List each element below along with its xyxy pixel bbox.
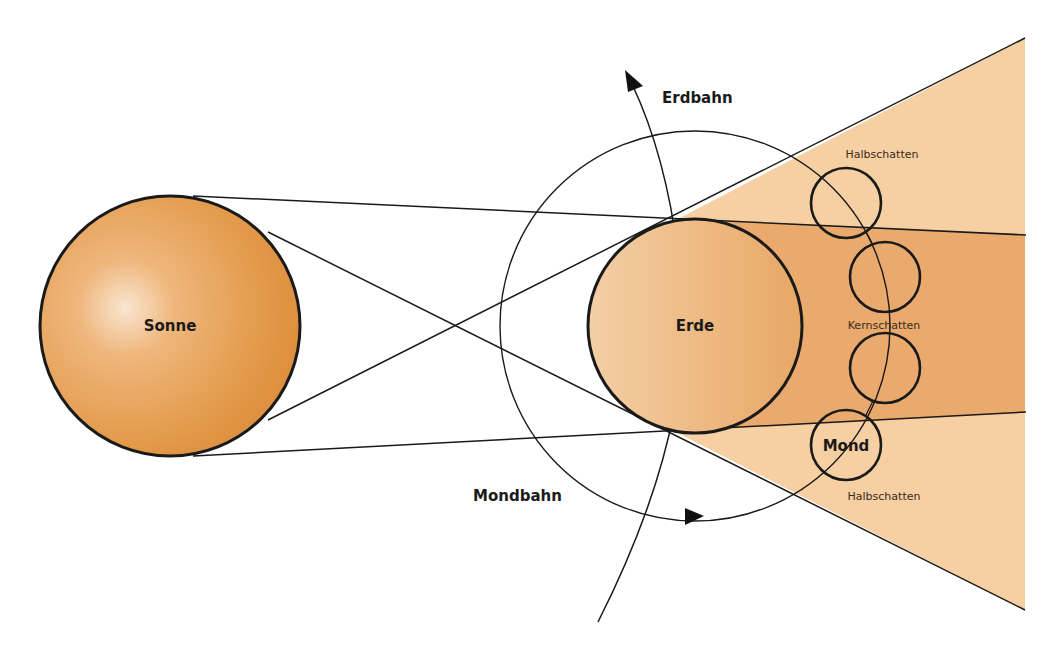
sun-label: Sonne xyxy=(144,317,197,335)
earth: Erde xyxy=(588,219,802,433)
lunar-eclipse-diagram: Sonne Erde Mond Erdbahn Mondbahn Halbsch… xyxy=(0,0,1056,653)
penumbra-label-top: Halbschatten xyxy=(846,148,919,161)
moon-orbit-label: Mondbahn xyxy=(473,487,562,505)
penumbra-label-bottom: Halbschatten xyxy=(848,490,921,503)
umbra-label: Kernschatten xyxy=(848,319,921,332)
moon-label: Mond xyxy=(823,437,870,455)
moon-orbit-arrow-icon xyxy=(685,508,704,525)
earth-orbit-label: Erdbahn xyxy=(662,89,733,107)
sun: Sonne xyxy=(40,196,300,456)
earth-orbit-arrow-icon xyxy=(625,70,643,92)
earth-label: Erde xyxy=(676,317,715,335)
